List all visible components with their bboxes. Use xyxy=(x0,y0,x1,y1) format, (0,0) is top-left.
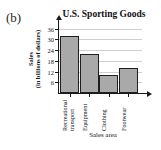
gridline xyxy=(58,29,142,30)
panel-label: (b) xyxy=(6,10,21,26)
bar xyxy=(119,68,138,93)
y-axis-tick-label: 6 xyxy=(51,79,54,86)
bar xyxy=(60,36,79,93)
bar xyxy=(80,54,99,93)
x-axis-category-label: Equipment xyxy=(82,104,89,131)
y-axis-tick-label: 24 xyxy=(48,47,54,54)
x-axis-title: Sales area xyxy=(58,131,148,138)
x-axis-tick-mark xyxy=(89,93,90,97)
x-axis-category-label: Footwear xyxy=(121,108,128,131)
x-axis-category-label: Clothing xyxy=(101,109,108,131)
y-axis-tick-mark xyxy=(55,72,59,73)
x-axis-tick-mark xyxy=(128,93,129,97)
x-axis-tick-mark xyxy=(70,93,71,97)
x-axis-category-label-line: Clothing xyxy=(101,109,108,131)
y-axis-tick-mark xyxy=(55,61,59,62)
y-axis-tick-label: 30 xyxy=(48,36,54,43)
x-axis-tick-mark xyxy=(109,93,110,97)
y-axis-arrow-icon xyxy=(56,15,62,20)
x-axis-category-label-line: Footwear xyxy=(121,108,128,131)
y-axis-tick-mark xyxy=(55,39,59,40)
y-axis-title: Sales (in billions of dollars) xyxy=(27,22,41,96)
plot-area: 61218243036 xyxy=(58,25,142,93)
bar xyxy=(99,75,118,93)
chart-figure: (b) U.S. Sporting Goods Sales (in billio… xyxy=(0,0,161,150)
y-axis-tick-mark xyxy=(55,29,59,30)
y-axis-tick-label: 12 xyxy=(48,68,54,75)
x-axis-category-label-line: Equipment xyxy=(82,104,89,131)
x-axis-category-label-line: transport xyxy=(69,100,76,131)
y-axis-tick-mark xyxy=(55,50,59,51)
y-axis-tick-label: 18 xyxy=(48,57,54,64)
x-axis-line xyxy=(58,93,148,94)
x-axis-arrow-icon xyxy=(147,91,152,97)
y-axis-tick-label: 36 xyxy=(48,25,54,32)
y-axis-tick-mark xyxy=(55,82,59,83)
chart-title: U.S. Sporting Goods xyxy=(48,9,160,19)
x-axis-category-label: Recreationaltransport xyxy=(62,100,75,131)
